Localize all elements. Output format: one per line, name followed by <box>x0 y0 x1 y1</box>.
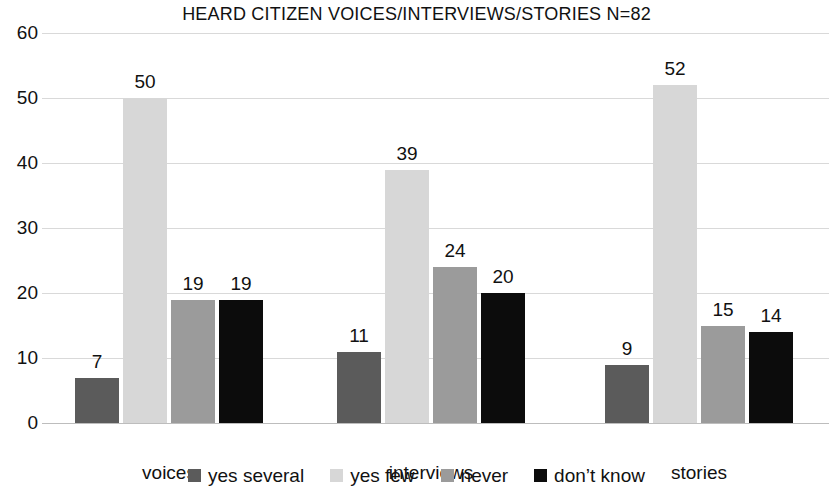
bar-value-label: 14 <box>741 306 801 325</box>
y-axis-tick-0: 0 <box>2 413 38 432</box>
legend-item-never[interactable]: never <box>441 466 509 485</box>
legend-label: don’t know <box>554 466 645 485</box>
bar-value-label: 7 <box>67 352 127 371</box>
y-axis-tick-60: 60 <box>2 23 38 42</box>
bar-voices-yes-few[interactable] <box>123 98 167 423</box>
bar-voices-don-t-know[interactable] <box>219 300 263 424</box>
bar-stories-never[interactable] <box>701 326 745 424</box>
bar-stories-yes-several[interactable] <box>605 365 649 424</box>
bar-value-label: 50 <box>115 72 175 91</box>
bar-voices-never[interactable] <box>171 300 215 424</box>
y-axis-tick-10: 10 <box>2 348 38 367</box>
bar-group-voices: 7501919 <box>75 33 263 423</box>
chart-title: HEARD CITIZEN VOICES/INTERVIEWS/STORIES … <box>0 4 833 25</box>
legend-swatch-icon <box>441 469 454 482</box>
bar-stories-don-t-know[interactable] <box>749 332 793 423</box>
plot-area: 7501919voices11392420interviews9521514st… <box>42 33 829 423</box>
bar-group-interviews: 11392420 <box>337 33 525 423</box>
bar-interviews-yes-few[interactable] <box>385 170 429 424</box>
legend-swatch-icon <box>330 469 343 482</box>
bar-interviews-never[interactable] <box>433 267 477 423</box>
legend-item-don-t-know[interactable]: don’t know <box>534 466 645 485</box>
bar-value-label: 20 <box>473 267 533 286</box>
chart-legend: yes severalyes fewneverdon’t know <box>0 466 833 485</box>
legend-item-yes-several[interactable]: yes several <box>188 466 304 485</box>
y-axis-tick-30: 30 <box>2 218 38 237</box>
bar-interviews-yes-several[interactable] <box>337 352 381 424</box>
bar-value-label: 39 <box>377 144 437 163</box>
bar-chart: HEARD CITIZEN VOICES/INTERVIEWS/STORIES … <box>0 0 833 497</box>
bar-value-label: 52 <box>645 59 705 78</box>
bar-voices-yes-several[interactable] <box>75 378 119 424</box>
bar-group-stories: 9521514 <box>605 33 793 423</box>
legend-swatch-icon <box>188 469 201 482</box>
y-axis: 0102030405060 <box>0 33 38 423</box>
gridline-0 <box>42 423 829 424</box>
legend-swatch-icon <box>534 469 547 482</box>
bar-value-label: 11 <box>329 326 389 345</box>
legend-label: yes several <box>208 466 304 485</box>
bar-value-label: 9 <box>597 339 657 358</box>
legend-label: never <box>461 466 509 485</box>
legend-label: yes few <box>350 466 414 485</box>
bar-value-label: 19 <box>211 274 271 293</box>
bar-interviews-don-t-know[interactable] <box>481 293 525 423</box>
legend-item-yes-few[interactable]: yes few <box>330 466 414 485</box>
y-axis-tick-50: 50 <box>2 88 38 107</box>
bar-stories-yes-few[interactable] <box>653 85 697 423</box>
y-axis-tick-40: 40 <box>2 153 38 172</box>
bar-value-label: 24 <box>425 241 485 260</box>
y-axis-tick-20: 20 <box>2 283 38 302</box>
